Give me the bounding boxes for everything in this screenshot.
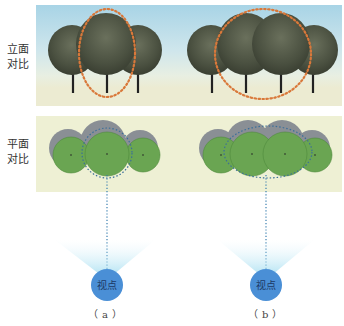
diagram-canvas: 视点 视点 (0, 0, 344, 326)
subfigure-a-label: （a） (88, 306, 126, 321)
plan-crowns-b (203, 132, 332, 176)
plan-b (199, 120, 332, 178)
viewpoint-a-label: 视点 (97, 279, 117, 291)
viewpoint-b-label: 视点 (256, 279, 276, 291)
tree-crowns-a (48, 13, 162, 75)
plan-a (49, 120, 160, 178)
elevation-a (48, 9, 162, 97)
tree-trunks-b (212, 70, 313, 93)
tree-crowns-b (187, 13, 338, 75)
subfigure-b-label: （b） (248, 306, 286, 321)
elevation-b (187, 9, 338, 99)
